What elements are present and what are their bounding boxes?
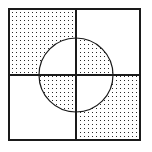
diagram-figure <box>0 0 152 152</box>
quadrant-bottom-right-fill <box>76 75 140 140</box>
diagram-canvas <box>0 0 152 152</box>
quadrant-top-left-fill <box>9 9 76 75</box>
